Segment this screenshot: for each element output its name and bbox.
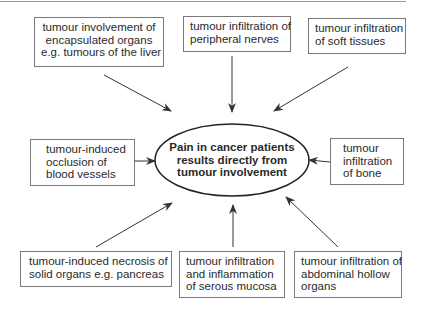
arrow-soft-tissues <box>274 67 348 111</box>
arrow-encapsulated-organs <box>104 75 171 111</box>
cause-box-serous-mucosa: tumour infiltration and inflammation of … <box>179 251 285 298</box>
cause-box-solid-organs: tumour-induced necrosis of solid organs … <box>20 251 172 287</box>
arrow-bone <box>309 160 330 162</box>
arrow-abdominal-hollow-organs <box>286 197 338 247</box>
cause-box-bone: tumour infiltration of bone <box>330 138 404 185</box>
arrow-solid-organs <box>96 203 172 247</box>
cause-box-encapsulated-organs: tumour involvement of encapsulated organ… <box>34 17 164 67</box>
cause-box-soft-tissues: tumour infiltration of soft tissues <box>308 18 406 54</box>
cause-box-peripheral-nerves: tumour infiltration of peripheral nerves <box>183 16 291 52</box>
center-node: Pain in cancer patients results directly… <box>155 124 309 196</box>
cause-box-blood-vessels: tumour-induced occlusion of blood vessel… <box>30 139 135 186</box>
cause-box-abdominal-hollow-organs: tumour infiltration of abdominal hollow … <box>294 251 402 298</box>
